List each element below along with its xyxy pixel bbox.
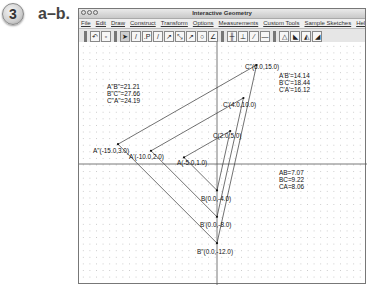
point-a1[interactable]	[150, 150, 152, 152]
measure-ca: CA=8.06	[279, 183, 304, 190]
point-icon[interactable]: .P	[142, 31, 152, 42]
ray-icon[interactable]: ↗	[164, 31, 174, 42]
label-a2: A"(-15.0,3.0)	[93, 147, 129, 155]
menu-bar: File Edit Draw Construct Transform Optio…	[79, 19, 365, 29]
point-b[interactable]	[216, 189, 218, 191]
undo-icon[interactable]: ↶	[90, 31, 100, 42]
label-a: A(-5.0,1.0)	[177, 159, 207, 167]
label-b: B(0.0,-4.0)	[201, 195, 231, 203]
triangle-measure-icon[interactable]: △	[279, 31, 289, 42]
measure-bc: BC=9.22	[279, 176, 304, 183]
menu-construct[interactable]: Construct	[130, 19, 156, 28]
label-a1: A'(-10.0,2.0)	[129, 153, 164, 161]
measure-b1c1: B'C'=18.44	[279, 79, 310, 86]
redo-icon[interactable]: ▫	[101, 31, 111, 42]
toolbar-separator	[114, 31, 117, 42]
pencil-icon[interactable]: /	[131, 31, 141, 42]
sketch-canvas[interactable]: A(-5.0,1.0) B(0.0,-4.0) C(2.0,5.0) A'(-1…	[79, 42, 365, 283]
measurements-original: AB=7.07 BC=9.22 CA=8.06	[279, 169, 304, 190]
measure-ab: AB=7.07	[279, 169, 304, 176]
geometry-app-window: Interactive Geometry File Edit Draw Cons…	[78, 8, 366, 284]
arrow-select-icon[interactable]: ➤	[120, 31, 130, 42]
label-b1: B'(0.0,-8.0)	[200, 221, 231, 229]
point-b2[interactable]	[216, 242, 218, 244]
menu-file[interactable]: File	[81, 19, 91, 28]
label-c1: C'(4.0,10.0)	[223, 101, 256, 109]
midpoint-icon[interactable]: —	[260, 31, 270, 42]
bisector-icon[interactable]: ⁄	[249, 31, 259, 42]
point-b1[interactable]	[216, 216, 218, 218]
point-c1[interactable]	[242, 97, 244, 99]
measure-c1a1: C'A'=16.12	[279, 86, 310, 93]
window-title: Interactive Geometry	[79, 9, 365, 18]
label-b2: B"(0.0,-12.0)	[197, 248, 233, 256]
menu-transform[interactable]: Transform	[161, 19, 188, 28]
vector-icon[interactable]: ↗	[186, 31, 196, 42]
line-icon[interactable]: ⤡	[175, 31, 185, 42]
toolbar-grip	[84, 31, 87, 42]
dilate-icon[interactable]: ◢	[312, 31, 322, 42]
segment-icon[interactable]: /	[153, 31, 163, 42]
title-bar: Interactive Geometry	[79, 9, 365, 19]
toolbar-separator	[273, 31, 276, 42]
point-a2[interactable]	[117, 143, 119, 145]
rotate-icon[interactable]: ◭	[301, 31, 311, 42]
circle-icon[interactable]: ○	[197, 31, 207, 42]
menu-draw[interactable]: Draw	[111, 19, 125, 28]
angle-icon[interactable]: ∠	[208, 31, 218, 42]
measurements-image2: A"B"=21.21 B"C"=27.66 C"A"=24.19	[107, 83, 141, 104]
measure-b2c2: B"C"=27.66	[107, 90, 141, 97]
reflect-icon[interactable]: ◣	[290, 31, 300, 42]
label-c: C(2.0,5.0)	[213, 132, 241, 140]
exercise-number-badge: 3	[2, 3, 24, 25]
geometry-drawing: A(-5.0,1.0) B(0.0,-4.0) C(2.0,5.0) A'(-1…	[79, 42, 367, 285]
label-c2: C"(6.0,15.0)	[245, 63, 279, 71]
parallel-icon[interactable]: ╫	[227, 31, 237, 42]
measurements-image1: A'B'=14.14 B'C'=18.44 C'A'=16.12	[279, 72, 310, 93]
toolbar-separator	[221, 31, 224, 42]
menu-help[interactable]: Help	[356, 19, 365, 28]
menu-measurements[interactable]: Measurements	[219, 19, 259, 28]
menu-options[interactable]: Options	[193, 19, 214, 28]
menu-edit[interactable]: Edit	[96, 19, 106, 28]
perpendicular-icon[interactable]: ⊥	[238, 31, 248, 42]
exercise-part-label: a–b.	[38, 5, 70, 23]
menu-sample-sketches[interactable]: Sample Sketches	[304, 19, 351, 28]
menu-custom-tools[interactable]: Custom Tools	[263, 19, 299, 28]
measure-a1b1: A'B'=14.14	[279, 72, 310, 79]
measure-c2a2: C"A"=24.19	[107, 97, 141, 104]
measure-a2b2: A"B"=21.21	[107, 83, 140, 90]
